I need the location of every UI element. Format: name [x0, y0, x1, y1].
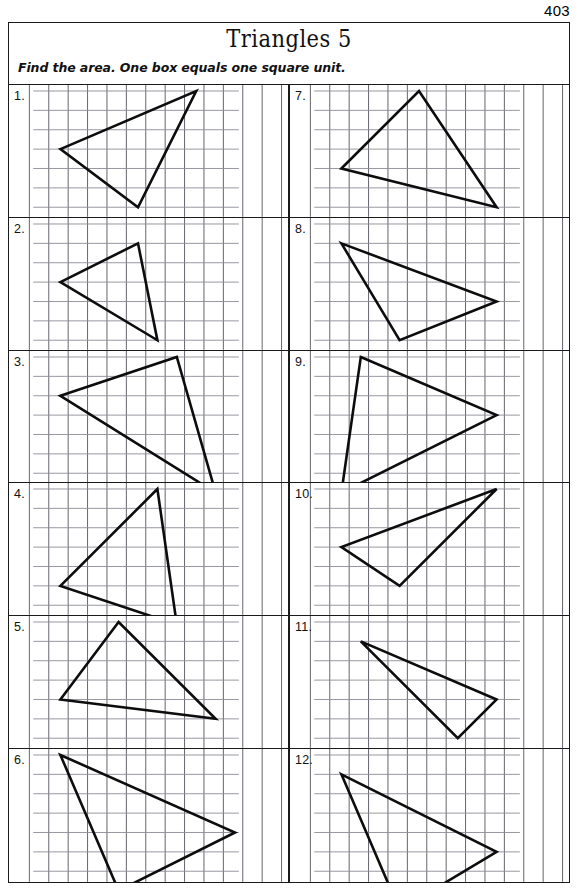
triangle-figure: [290, 749, 569, 882]
triangle-outline: [60, 489, 176, 615]
triangle-figure: [9, 218, 288, 350]
problem-number: 10.: [295, 487, 313, 501]
triangle-figure: [9, 749, 288, 882]
triangle-figure: [290, 218, 569, 350]
triangle-outline: [361, 642, 497, 739]
triangle-outline: [341, 357, 496, 483]
problem-number: 6.: [14, 753, 25, 767]
problem-cell: 9.: [289, 351, 569, 484]
triangle-figure: [9, 85, 288, 217]
worksheet-sheet: Triangles 5 Find the area. One box equal…: [8, 22, 570, 883]
problem-cell: 12.: [289, 749, 569, 882]
triangle-outline: [60, 357, 215, 483]
problem-cell: 3.: [9, 351, 289, 484]
problem-cell: 4.: [9, 483, 289, 616]
problem-cell: 1.: [9, 85, 289, 218]
worksheet-header: Triangles 5 Find the area. One box equal…: [9, 23, 569, 85]
triangle-figure: [290, 616, 569, 748]
problem-cell: 11.: [289, 616, 569, 749]
problem-number: 9.: [295, 355, 306, 369]
problem-cell: 6.: [9, 749, 289, 882]
problem-number: 4.: [14, 487, 25, 501]
problem-number: 7.: [295, 89, 306, 103]
triangle-figure: [9, 351, 288, 483]
problem-number: 1.: [14, 89, 25, 103]
problem-grid: 1.7.2.8.3.9.4.10.5.11.6.12.: [9, 85, 569, 882]
triangle-figure: [290, 483, 569, 615]
page-title: Triangles 5: [9, 26, 569, 53]
problem-cell: 10.: [289, 483, 569, 616]
triangle-figure: [290, 351, 569, 483]
problem-cell: 7.: [289, 85, 569, 218]
triangle-outline: [60, 243, 157, 340]
problem-cell: 8.: [289, 218, 569, 351]
problem-cell: 2.: [9, 218, 289, 351]
triangle-outline: [341, 489, 496, 586]
triangle-outline: [341, 243, 496, 340]
problem-number: 11.: [295, 620, 312, 634]
problem-number: 12.: [295, 753, 313, 767]
triangle-outline: [60, 622, 215, 719]
problem-number: 8.: [295, 222, 306, 236]
triangle-figure: [290, 85, 569, 217]
problem-number: 5.: [14, 620, 25, 634]
problem-number: 2.: [14, 222, 25, 236]
problem-number: 3.: [14, 355, 25, 369]
problem-cell: 5.: [9, 616, 289, 749]
triangle-figure: [9, 616, 288, 748]
page-number: 403: [544, 2, 570, 20]
triangle-figure: [9, 483, 288, 615]
triangle-outline: [341, 775, 496, 882]
instruction-text: Find the area. One box equals one square…: [18, 60, 346, 75]
